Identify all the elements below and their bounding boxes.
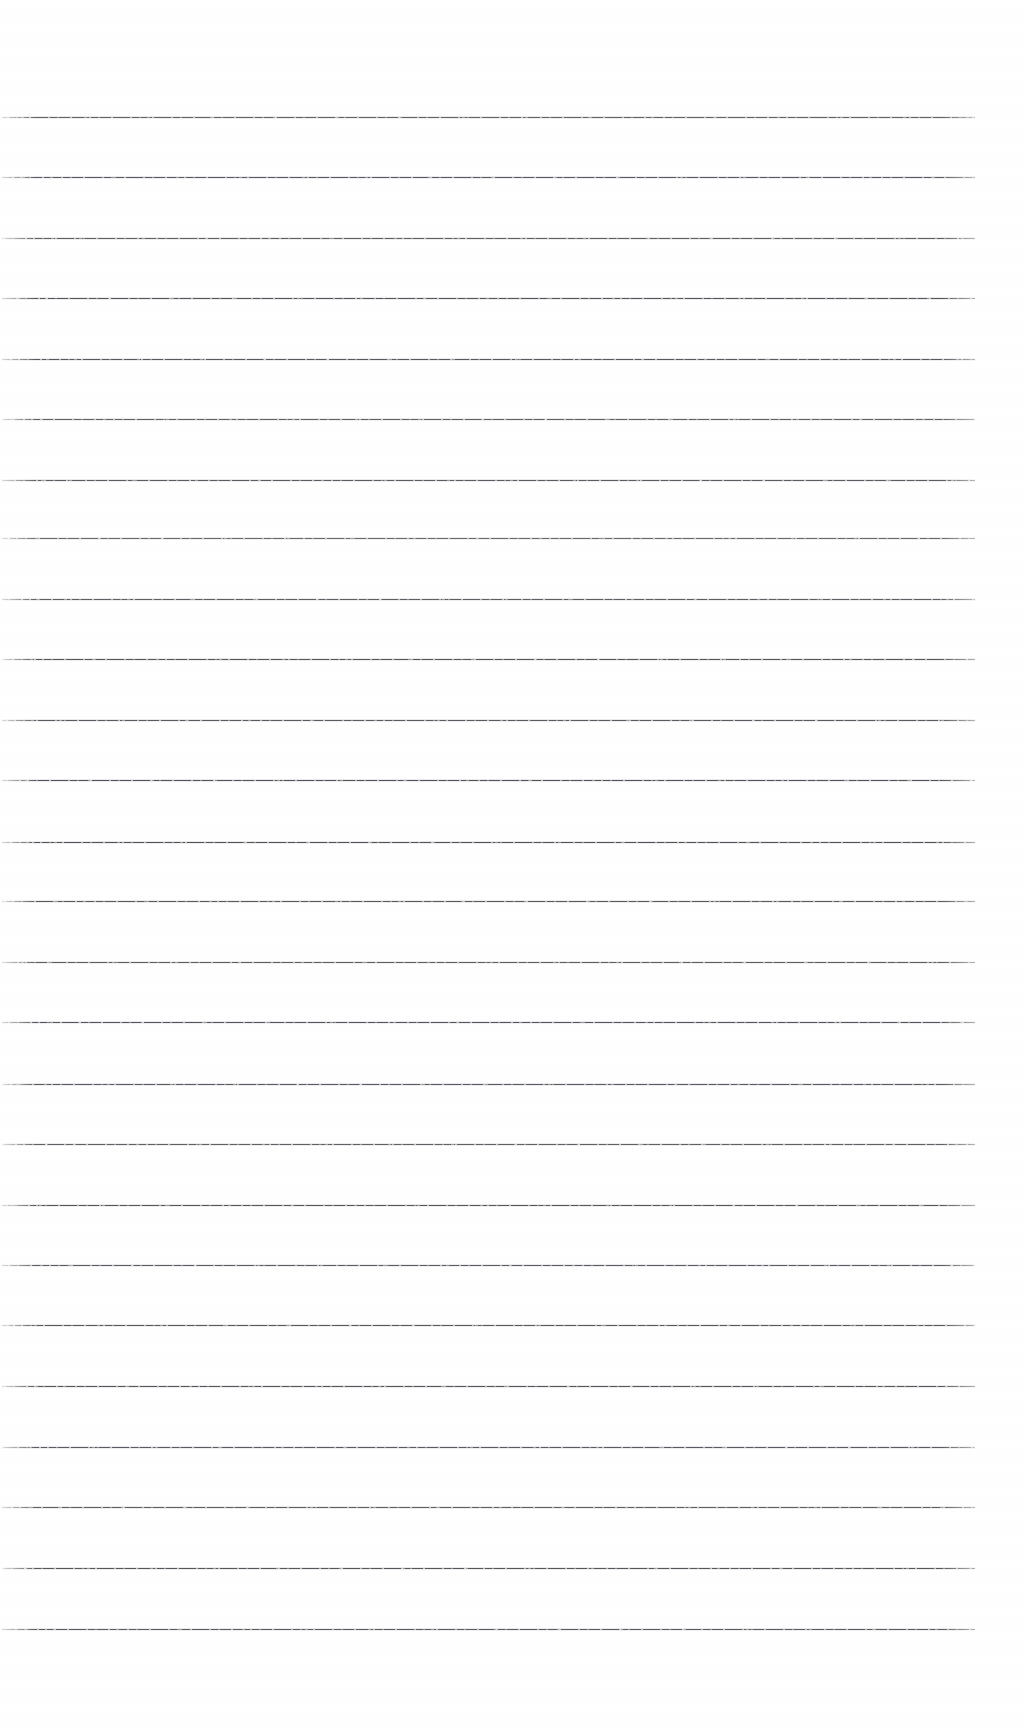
notebook-page — [0, 0, 1030, 1728]
writing-area[interactable] — [2, 117, 975, 1629]
rule-line-texture-secondary — [2, 1629, 975, 1630]
